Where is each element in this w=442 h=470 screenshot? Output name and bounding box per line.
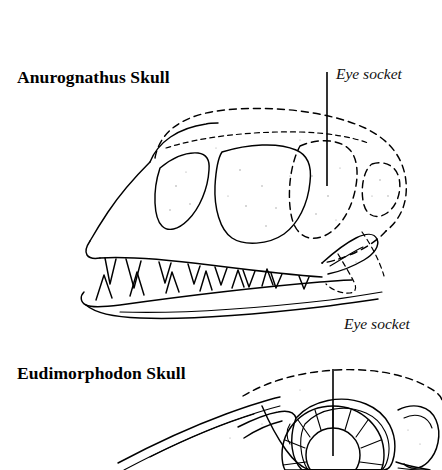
tooth-upper-4 xyxy=(188,264,200,284)
antorbital-fenestra xyxy=(155,153,209,229)
premaxilla-tip xyxy=(86,241,100,258)
maxilla-tooth-margin xyxy=(100,257,322,277)
skull-illustration-figure: Anurognathus Skull Eudimorphodon Skull E… xyxy=(0,0,442,470)
eud-jugal-strut xyxy=(238,411,296,427)
retroarticular-dashed xyxy=(362,232,384,276)
temporal-fenestra xyxy=(362,163,400,217)
mandible-inner-line xyxy=(120,292,382,312)
mandible-upper-edge xyxy=(81,280,352,307)
eud-orbit-inner xyxy=(301,408,389,470)
stipple-texture-lower xyxy=(229,390,420,445)
tooth-upper-6 xyxy=(243,270,255,287)
eye-socket-annotation-anurognathus: Eye socket xyxy=(336,66,402,82)
tooth-upper-1 xyxy=(105,258,116,284)
eye-socket-orbit xyxy=(289,141,357,239)
eud-snout-upper-margin xyxy=(118,397,280,463)
eudimorphodon-skull-title: Eudimorphodon Skull xyxy=(17,365,186,383)
anurognathus-skull-title: Anurognathus Skull xyxy=(17,69,170,87)
eud-snout-lower-margin xyxy=(124,406,280,470)
eud-cranial-dashed-outline xyxy=(243,370,442,400)
eud-postorbital-inner xyxy=(404,415,432,428)
anurognathus-skull-drawing xyxy=(81,108,406,318)
eud-snout-ridge xyxy=(150,414,254,457)
lower-tooth-row xyxy=(96,269,273,300)
tooth-upper-5 xyxy=(215,267,227,285)
eudimorphodon-skull-drawing xyxy=(118,370,442,470)
tooth-lower-5 xyxy=(232,270,244,288)
eye-socket-annotation-eudimorphodon: Eye socket xyxy=(344,316,410,332)
tooth-lower-4 xyxy=(200,271,212,291)
snout-upper-outline xyxy=(90,162,150,241)
